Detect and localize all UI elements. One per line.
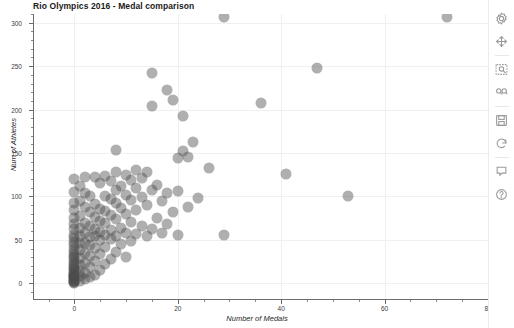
x-axis-minor-tick — [229, 300, 230, 302]
y-axis-minor-tick — [31, 49, 33, 50]
zoom-selection-icon[interactable] — [492, 59, 512, 79]
y-axis-minor-tick — [31, 266, 33, 267]
scatter-point — [115, 239, 126, 250]
x-axis-tick-label: 20 — [174, 305, 181, 312]
box-zoom-icon[interactable] — [492, 82, 512, 102]
x-axis-tick — [178, 300, 179, 304]
scatter-point — [110, 145, 121, 156]
y-axis-minor-tick — [31, 205, 33, 206]
scatter-point — [441, 14, 452, 22]
scatter-point — [255, 98, 266, 109]
y-axis-minor-tick — [31, 92, 33, 93]
toolbar-divider — [495, 157, 509, 158]
x-axis-minor-tick — [410, 300, 411, 302]
scatter-point — [141, 200, 152, 211]
x-axis-minor-tick — [255, 300, 256, 302]
gridline-horizontal — [33, 283, 488, 284]
y-axis-minor-tick — [31, 170, 33, 171]
gridline-horizontal — [33, 153, 488, 154]
y-axis-tick — [29, 23, 33, 24]
scatter-point — [126, 216, 137, 227]
scatter-point — [183, 151, 194, 162]
move-pan-icon[interactable] — [492, 31, 512, 51]
y-axis-tick-label: 50 — [15, 236, 22, 243]
scatter-point — [203, 162, 214, 173]
scatter-point — [146, 101, 157, 112]
toolbar-divider — [495, 55, 509, 56]
scatter-point — [343, 190, 354, 201]
gridline-vertical — [385, 14, 386, 299]
x-axis-tick-label: 40 — [278, 305, 285, 312]
help-question-icon[interactable] — [492, 184, 512, 204]
y-axis-tick-label: 300 — [11, 19, 22, 26]
y-axis-minor-tick — [31, 84, 33, 85]
y-axis-tick — [29, 240, 33, 241]
scatter-point — [162, 187, 173, 198]
y-axis-minor-tick — [31, 214, 33, 215]
y-axis-minor-tick — [31, 118, 33, 119]
y-axis-minor-tick — [31, 292, 33, 293]
y-axis-tick-label: 0 — [18, 280, 22, 287]
scatter-point — [110, 167, 121, 178]
scatter-point — [219, 14, 230, 22]
y-axis-tick — [29, 66, 33, 67]
y-axis-minor-tick — [31, 75, 33, 76]
scatter-point — [152, 213, 163, 224]
scatter-point — [167, 207, 178, 218]
x-axis-tick — [385, 300, 386, 304]
scatter-point — [183, 201, 194, 212]
scatter-point — [146, 68, 157, 79]
y-axis-minor-tick — [31, 31, 33, 32]
scatter-point — [146, 224, 157, 235]
scatter-point — [193, 193, 204, 204]
y-axis-minor-tick — [31, 144, 33, 145]
x-axis-minor-tick — [359, 300, 360, 302]
y-axis-tick-label: 250 — [11, 63, 22, 70]
scatter-point — [281, 168, 292, 179]
y-axis-minor-tick — [31, 249, 33, 250]
scatter-point — [152, 180, 163, 191]
y-axis-minor-tick — [31, 57, 33, 58]
x-axis-tick — [281, 300, 282, 304]
y-axis-minor-tick — [31, 231, 33, 232]
scatter-point — [131, 204, 142, 215]
scatter-point — [167, 95, 178, 106]
page-title: Rio Olympics 2016 - Medal comparison — [33, 1, 194, 11]
x-axis-minor-tick — [462, 300, 463, 302]
y-axis-minor-tick — [31, 127, 33, 128]
y-axis-minor-tick — [31, 223, 33, 224]
scatter-point — [188, 136, 199, 147]
chart-toolbar[interactable] — [488, 0, 514, 328]
y-axis-minor-tick — [31, 14, 33, 15]
x-axis-minor-tick — [49, 300, 50, 302]
y-axis-minor-tick — [31, 162, 33, 163]
settings-gear-icon[interactable] — [492, 8, 512, 28]
y-axis-tick — [29, 153, 33, 154]
x-axis-minor-tick — [204, 300, 205, 302]
x-axis-minor-tick — [100, 300, 101, 302]
scatter-point — [172, 229, 183, 240]
y-axis-minor-tick — [31, 101, 33, 102]
x-axis-spine — [33, 299, 488, 300]
x-axis-tick-label: 0 — [73, 305, 77, 312]
scatter-point — [172, 186, 183, 197]
reset-refresh-icon[interactable] — [492, 133, 512, 153]
y-axis-minor-tick — [31, 188, 33, 189]
x-axis-minor-tick — [436, 300, 437, 302]
y-axis-minor-tick — [31, 40, 33, 41]
save-disk-icon[interactable] — [492, 110, 512, 130]
y-axis-spine — [33, 14, 34, 299]
x-axis-tick — [74, 300, 75, 304]
x-axis-tick-label: 60 — [381, 305, 388, 312]
y-axis-tick — [29, 196, 33, 197]
scatter-point — [177, 110, 188, 121]
toolbar-divider — [495, 106, 509, 107]
x-axis-minor-tick — [152, 300, 153, 302]
y-axis-tick — [29, 110, 33, 111]
x-axis-minor-tick — [126, 300, 127, 302]
figure-canvas: Rio Olympics 2016 - Medal comparison 020… — [0, 0, 514, 328]
x-axis-label: Number of Medals — [0, 314, 514, 323]
hover-tooltip-icon[interactable] — [492, 161, 512, 181]
plot-area[interactable] — [33, 14, 488, 299]
scatter-point — [312, 62, 323, 73]
